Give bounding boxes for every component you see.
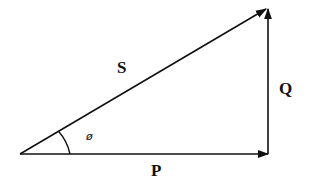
label-q: Q [279, 79, 292, 98]
angle-arc [59, 131, 71, 154]
label-phi: ø [85, 130, 93, 143]
vector-s [20, 9, 266, 154]
label-p: P [151, 161, 161, 180]
label-s: S [117, 58, 126, 77]
power-triangle-diagram: S Q P ø [0, 0, 309, 188]
